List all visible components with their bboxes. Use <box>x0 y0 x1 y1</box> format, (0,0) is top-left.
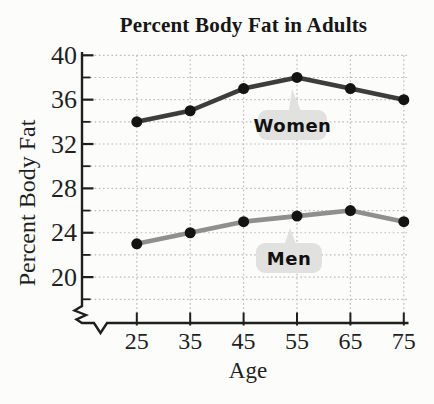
men-data-point <box>292 211 303 222</box>
men-data-point <box>345 205 356 216</box>
women-data-point <box>292 72 303 83</box>
x-tick-label: 25 <box>125 328 149 354</box>
y-axis-label: Percent Body Fat <box>14 120 41 287</box>
chart-svg: 202428323640253545556575 <box>0 0 434 404</box>
men-data-point <box>398 216 409 227</box>
y-tick-label: 20 <box>51 263 77 292</box>
men-data-point <box>238 216 249 227</box>
men-line <box>137 211 404 244</box>
women-callout-label: Women <box>254 115 332 136</box>
y-tick-label: 32 <box>51 130 77 159</box>
women-data-point <box>345 83 356 94</box>
y-tick-label: 28 <box>51 174 77 203</box>
men-data-point <box>185 227 196 238</box>
men-data-point <box>131 238 142 249</box>
x-tick-label: 45 <box>232 328 256 354</box>
chart-title: Percent Body Fat in Adults <box>82 13 405 38</box>
y-tick-label: 36 <box>51 85 77 114</box>
body-fat-chart-figure: 202428323640253545556575 Percent Body Fa… <box>0 0 434 404</box>
women-data-point <box>131 116 142 127</box>
women-series-callout: Women <box>258 110 327 140</box>
y-tick-label: 40 <box>51 41 77 70</box>
women-data-point <box>185 105 196 116</box>
men-callout-label: Men <box>267 248 311 269</box>
y-tick-label: 24 <box>51 218 77 247</box>
x-tick-label: 75 <box>392 328 416 354</box>
men-series-callout: Men <box>256 243 322 273</box>
women-data-point <box>398 94 409 105</box>
women-data-point <box>238 83 249 94</box>
x-axis-label: Age <box>148 358 348 384</box>
axes-with-break <box>75 52 409 333</box>
x-tick-label: 55 <box>285 328 309 354</box>
x-tick-label: 65 <box>338 328 362 354</box>
x-tick-label: 35 <box>178 328 202 354</box>
